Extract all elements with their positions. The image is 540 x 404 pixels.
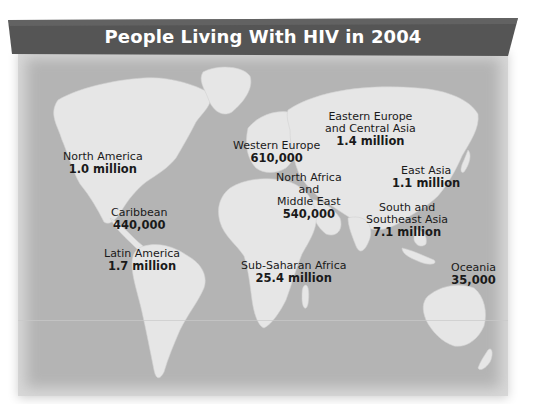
region-label-eastern-europe-central-asia: Eastern Europe and Central Asia 1.4 mill… xyxy=(325,111,416,147)
region-value: 1.4 million xyxy=(325,135,416,147)
region-value: 540,000 xyxy=(276,208,342,220)
region-label-north-america: North America 1.0 million xyxy=(63,151,143,175)
region-label-north-africa-middle-east: North Africa and Middle East 540,000 xyxy=(276,172,342,220)
region-label-western-europe: Western Europe 610,000 xyxy=(233,140,320,164)
region-label-oceania: Oceania 35,000 xyxy=(451,262,496,286)
continent-greenland xyxy=(201,67,251,114)
region-label-sub-saharan-africa: Sub-Saharan Africa 25.4 million xyxy=(241,260,346,284)
map-grid-line xyxy=(18,320,508,321)
region-label-east-asia: East Asia 1.1 million xyxy=(392,165,460,189)
region-label-caribbean: Caribbean 440,000 xyxy=(111,207,167,231)
region-value: 35,000 xyxy=(451,274,496,286)
region-value: 1.1 million xyxy=(392,177,460,189)
region-value: 440,000 xyxy=(111,219,167,231)
continent-madagascar xyxy=(302,285,309,308)
continent-australia xyxy=(423,285,485,346)
continent-new-zealand xyxy=(478,349,492,370)
region-value: 610,000 xyxy=(233,152,320,164)
region-label-south-southeast-asia: South and Southeast Asia 7.1 million xyxy=(366,202,448,238)
continent-indonesia xyxy=(402,248,435,264)
region-label-latin-america: Latin America 1.7 million xyxy=(104,248,180,272)
region-value: 1.7 million xyxy=(104,260,180,272)
title-banner: People Living With HIV in 2004 xyxy=(8,18,518,58)
region-value: 25.4 million xyxy=(241,272,346,284)
region-value: 1.0 million xyxy=(63,163,143,175)
region-value: 7.1 million xyxy=(366,226,448,238)
map-title: People Living With HIV in 2004 xyxy=(8,18,518,58)
